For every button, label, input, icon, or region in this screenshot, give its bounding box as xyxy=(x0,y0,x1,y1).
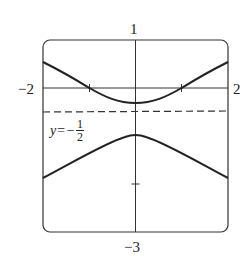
fraction: 1 2 xyxy=(76,118,84,143)
graph-canvas xyxy=(0,0,249,265)
fraction-denominator: 2 xyxy=(77,131,83,143)
right-label: 2 xyxy=(233,82,241,97)
left-label: −2 xyxy=(18,82,34,97)
asymptote-label-prefix: y=− xyxy=(50,123,75,139)
bottom-label: −3 xyxy=(124,240,140,255)
asymptote-label: y=− 1 2 xyxy=(50,118,84,143)
asymptote-line xyxy=(43,111,228,112)
top-label: 1 xyxy=(130,22,138,37)
